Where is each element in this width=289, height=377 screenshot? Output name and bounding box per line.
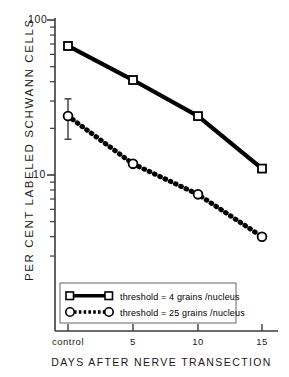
series-line-0 [68,46,262,169]
figure-panel: PER CENT LABELED SCHWANN CELLS 100 10 co… [0,0,289,377]
data-point-marker [129,76,137,84]
legend-label-0: threshold = 4 grains /nucleus [120,292,240,302]
data-point-marker [64,42,72,50]
legend-label-1: threshold = 25 grains /nucleus [120,308,245,318]
data-point-marker [194,190,203,199]
series-line-1 [68,116,262,237]
data-point-marker [258,165,266,173]
data-point-marker [64,112,73,121]
data-series-layer [64,42,267,241]
y-axis-ticks [47,20,55,256]
data-point-marker [194,112,202,120]
data-point-marker [129,159,138,168]
x-axis-ticks [68,324,262,331]
data-point-marker [258,232,267,241]
plot-area: threshold = 4 grains /nucleus threshold … [0,0,289,377]
legend-box: threshold = 4 grains /nucleus threshold … [60,283,245,323]
